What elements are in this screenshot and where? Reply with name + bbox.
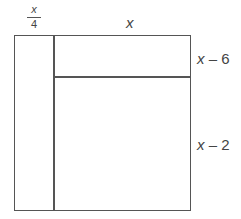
label-x-minus-2: x – 2	[197, 136, 230, 153]
label-x-minus-6: x – 6	[197, 50, 230, 67]
fraction-numerator: x	[31, 4, 37, 15]
label-top-x: x	[126, 14, 134, 31]
label-x-over-4: x 4	[26, 4, 42, 30]
vertical-divider	[53, 35, 55, 211]
outer-rectangle	[14, 35, 191, 211]
horizontal-divider	[54, 76, 191, 78]
fraction-denominator: 4	[31, 19, 37, 30]
